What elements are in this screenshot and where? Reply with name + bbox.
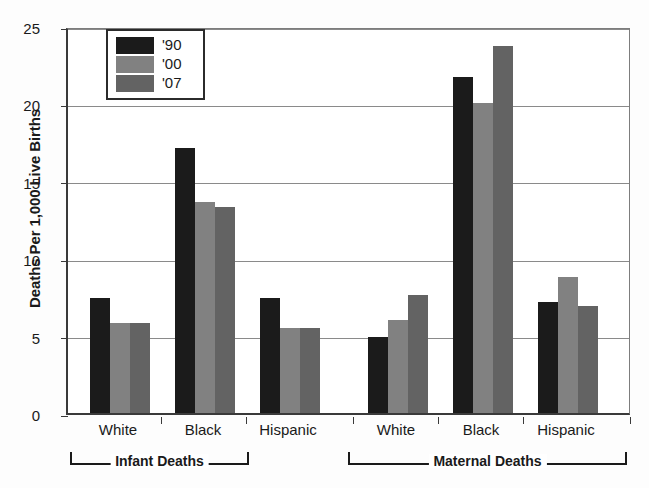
y-tick-mark-15 [61,183,68,184]
y-tick-label-5: 5 [0,330,40,347]
legend: '90 '00 '07 [106,29,205,100]
gridline-20 [68,106,629,107]
legend-label-90: '90 [162,36,182,53]
bracket-label: Infant Deaths [110,454,209,468]
bar-00-white-infant [110,323,130,413]
bar-90-black-maternal [453,77,473,413]
bar-07-black-maternal [493,46,513,413]
bar-07-white-infant [130,323,150,413]
y-tick-mark-25 [61,29,68,30]
y-tick-mark-20 [61,106,68,107]
bracket-label: Maternal Deaths [428,454,546,468]
y-axis-title: Deaths Per 1,000 Live Births [26,9,43,409]
bar-00-black-maternal [473,103,493,413]
bar-chart-figure: Deaths Per 1,000 Live Births 0510152025 … [0,0,649,488]
x-separator-tick-2 [353,417,354,424]
bar-07-hispanic-maternal [578,306,598,413]
y-tick-label-0: 0 [0,407,40,424]
y-tick-mark-10 [61,261,68,262]
x-separator-tick-3 [438,417,439,424]
bracket-cap-right [247,452,249,465]
bar-00-hispanic-maternal [558,277,578,413]
bar-07-hispanic-infant [300,328,320,413]
gridline-10 [68,261,629,262]
bracket-infant-deaths: Infant Deaths [70,452,249,468]
bracket-maternal-deaths: Maternal Deaths [348,452,627,468]
y-tick-label-15: 15 [0,175,40,192]
x-separator-tick-5 [630,417,631,424]
bar-90-white-maternal [368,337,388,413]
bar-00-black-infant [195,202,215,413]
y-tick-mark-0 [61,416,68,417]
y-tick-label-10: 10 [0,252,40,269]
x-tick-label-hispanic-infant: Hispanic [238,421,338,438]
x-tick-label-hispanic-maternal: Hispanic [516,421,616,438]
bar-07-black-infant [215,207,235,413]
x-separator-tick-4 [523,417,524,424]
legend-label-00: '00 [162,55,182,72]
y-tick-mark-5 [61,338,68,339]
bar-90-hispanic-maternal [538,302,558,413]
bar-00-hispanic-infant [280,328,300,413]
legend-label-07: '07 [162,74,182,91]
bracket-cap-left [70,452,72,465]
gridline-15 [68,183,629,184]
bar-07-white-maternal [408,295,428,413]
bracket-cap-left [348,452,350,465]
bar-00-white-maternal [388,320,408,413]
legend-swatch-07 [116,75,154,92]
y-tick-label-20: 20 [0,97,40,114]
bar-90-white-infant [90,298,110,413]
bar-90-black-infant [175,148,195,413]
y-tick-label-25: 25 [0,20,40,37]
bracket-cap-right [625,452,627,465]
x-separator-tick-0 [161,417,162,424]
legend-swatch-90 [116,37,154,54]
legend-swatch-00 [116,56,154,73]
bar-90-hispanic-infant [260,298,280,413]
x-separator-tick-1 [246,417,247,424]
